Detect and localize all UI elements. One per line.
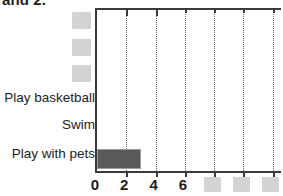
redacted-y-axis-label bbox=[72, 65, 91, 82]
gridline bbox=[214, 10, 215, 171]
plot-area bbox=[95, 8, 281, 173]
x-axis-tick-label: 6 bbox=[173, 176, 193, 194]
gridline bbox=[273, 10, 274, 171]
x-axis-top-tick bbox=[185, 8, 187, 13]
gridline bbox=[126, 10, 127, 171]
x-axis-major-tick bbox=[126, 8, 128, 16]
x-axis-tick-label: 0 bbox=[85, 176, 105, 194]
y-axis-category-label: Swim bbox=[62, 117, 95, 133]
y-axis-category-label: Play basketball bbox=[4, 90, 95, 106]
bar[interactable] bbox=[97, 149, 141, 169]
redacted-y-axis-label bbox=[72, 12, 91, 29]
redacted-x-axis-tick-label bbox=[204, 177, 221, 192]
chart-screenshot: and 2. Play basketballSwimPlay with pets… bbox=[0, 0, 283, 196]
x-axis-top-tick bbox=[214, 8, 216, 13]
x-axis-top-tick bbox=[273, 8, 275, 13]
redacted-x-axis-tick-label bbox=[262, 177, 279, 192]
redacted-y-axis-label bbox=[72, 39, 91, 56]
y-axis-category-label: Play with pets bbox=[12, 146, 95, 162]
x-axis-tick-label: 2 bbox=[114, 176, 134, 194]
gridline bbox=[156, 10, 157, 171]
redacted-x-axis-tick-label bbox=[233, 177, 250, 192]
x-axis-major-tick bbox=[156, 8, 158, 16]
gridline bbox=[185, 10, 186, 171]
x-axis-top-tick bbox=[243, 8, 245, 13]
gridline bbox=[243, 10, 244, 171]
x-axis-tick-label: 4 bbox=[144, 176, 164, 194]
